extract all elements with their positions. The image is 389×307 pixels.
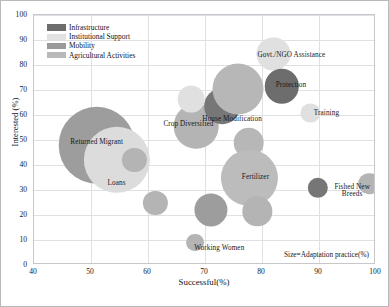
size-encoding-note: Size=Adaptation practice(%) (284, 250, 369, 259)
legend-item-label: Institutional Support (69, 32, 130, 41)
bubble-point (308, 177, 328, 197)
y-tick-label: 100 (16, 10, 27, 19)
x-axis-label: Successful(%) (33, 277, 375, 287)
x-tick-label: 40 (29, 267, 37, 276)
legend-swatch-icon (47, 52, 66, 59)
bubble-label: Loans (108, 180, 126, 188)
legend-item-label: Mobility (69, 41, 95, 50)
y-axis-label: Interested (%) (10, 74, 20, 170)
bubble-label: Protection (276, 82, 307, 90)
bubble-label: Fertilizer (242, 174, 269, 182)
bubble-label: Govt./NGO Assistance (257, 52, 325, 60)
legend-item-agricultural-activities: Agricultural Activities (47, 51, 135, 60)
x-tick-label: 70 (200, 267, 208, 276)
bubble-label: House Modification (202, 116, 262, 124)
x-tick-label: 100 (369, 267, 380, 276)
bubble-label: Training (314, 110, 339, 118)
bubble-label: Returned Migrant (70, 139, 123, 147)
bubble-point (243, 197, 272, 226)
plot-area: Returned MigrantLoansCrop DiversifiedHou… (33, 14, 375, 264)
y-tick-label: 40 (19, 160, 27, 169)
bubble-point (213, 63, 264, 114)
y-tick-label: 70 (19, 85, 27, 94)
gridline-horizontal (34, 90, 374, 91)
gridline-horizontal (34, 15, 374, 16)
x-tick-label: 90 (314, 267, 322, 276)
y-tick-label: 20 (19, 210, 27, 219)
legend: InfrastructureInstitutional SupportMobil… (45, 21, 138, 62)
legend-swatch-icon (47, 43, 66, 50)
bubble-point (177, 85, 204, 112)
x-tick-label: 80 (257, 267, 265, 276)
y-tick-label: 0 (23, 260, 27, 269)
gridline-vertical (148, 15, 149, 263)
legend-item-institutional-support: Institutional Support (47, 32, 135, 41)
bubble-point (194, 193, 227, 226)
bubble-point (143, 190, 167, 214)
x-tick-label: 60 (143, 267, 151, 276)
y-tick-label: 50 (19, 135, 27, 144)
y-tick-label: 30 (19, 185, 27, 194)
y-tick-label: 90 (19, 35, 27, 44)
bubble-label: Working Women (194, 245, 244, 253)
legend-item-infrastructure: Infrastructure (47, 23, 135, 32)
legend-swatch-icon (47, 34, 66, 41)
bubble-label: Fished New Breeds (334, 184, 370, 199)
y-tick-label: 80 (19, 60, 27, 69)
legend-item-mobility: Mobility (47, 41, 135, 50)
legend-swatch-icon (47, 24, 66, 31)
legend-item-label: Infrastructure (69, 23, 109, 32)
gridline-horizontal (34, 65, 374, 66)
legend-item-label: Agricultural Activities (69, 51, 135, 60)
x-axis-ticks: 405060708090100 (33, 265, 375, 277)
y-tick-label: 60 (19, 110, 27, 119)
x-tick-label: 50 (86, 267, 94, 276)
bubble-chart-figure: 0102030405060708090100 Interested (%) Re… (0, 0, 389, 307)
y-tick-label: 10 (19, 235, 27, 244)
